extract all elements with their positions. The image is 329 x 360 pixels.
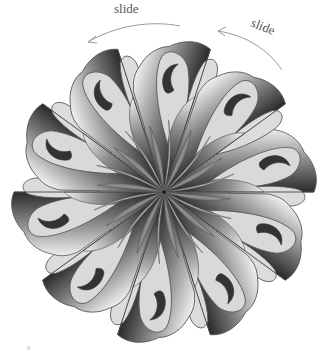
rosette bbox=[3, 27, 324, 356]
figure-footnote: 8 bbox=[27, 345, 30, 351]
rosette-diagram: slide slide bbox=[0, 0, 329, 360]
slide-label-right: slide bbox=[249, 15, 278, 38]
rosette-center bbox=[162, 190, 165, 193]
slide-arrow-left bbox=[88, 24, 180, 43]
slide-label-left: slide bbox=[114, 1, 139, 16]
